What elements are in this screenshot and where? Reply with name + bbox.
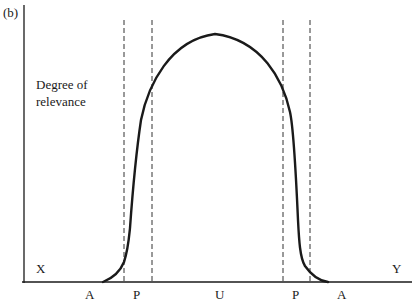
relevance-curve [103,34,328,282]
relevance-diagram [0,0,418,305]
y-axis-label-line1: Degree of [36,76,88,93]
region-label-a-right: A [337,288,346,301]
region-label-p-right: P [292,288,299,301]
region-label-u: U [215,288,224,301]
x-axis-left-end-label: X [36,262,45,275]
region-label-p-left: P [133,288,140,301]
panel-label: (b) [3,6,18,19]
x-axis-right-end-label: Y [392,262,401,275]
region-label-a-left: A [85,288,94,301]
y-axis-label: Degree of relevance [36,76,88,110]
y-axis-label-line2: relevance [36,93,88,110]
